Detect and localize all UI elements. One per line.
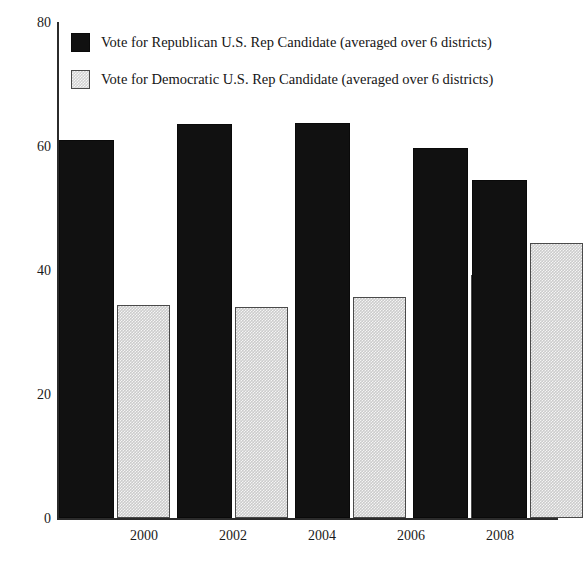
bar-republican-2000 <box>59 140 114 518</box>
y-tick-label-60: 60 <box>5 140 51 154</box>
x-tick-label-2000: 2000 <box>130 528 158 544</box>
bar-democratic-2002 <box>235 307 288 518</box>
bar-democratic-2006 <box>471 275 524 518</box>
bar-republican-2004 <box>295 123 350 518</box>
y-tick-label-0: 0 <box>5 512 51 526</box>
bar-republican-2002 <box>177 124 232 518</box>
plot-area <box>59 22 558 518</box>
x-tick-label-2006: 2006 <box>397 528 425 544</box>
legend-swatch-democratic-icon <box>71 70 90 89</box>
y-tick-label-40: 40 <box>5 264 51 278</box>
x-tick-label-2008: 2008 <box>486 528 514 544</box>
legend-item-democratic: Vote for Democratic U.S. Rep Candidate (… <box>71 69 493 89</box>
y-axis-tick-labels: 80 60 40 20 0 <box>0 0 51 564</box>
x-tick-label-2004: 2004 <box>308 528 336 544</box>
legend-item-republican: Vote for Republican U.S. Rep Candidate (… <box>71 32 492 52</box>
bar-democratic-2004 <box>353 297 406 518</box>
x-tick-label-2002: 2002 <box>219 528 247 544</box>
cropped-header-bleed <box>60 0 480 4</box>
bar-republican-2006 <box>413 148 468 518</box>
legend-swatch-republican-icon <box>71 33 90 52</box>
legend-label-democratic: Vote for Democratic U.S. Rep Candidate (… <box>101 71 493 87</box>
x-axis-line <box>57 518 558 520</box>
bar-democratic-2000 <box>117 305 170 518</box>
y-tick-label-20: 20 <box>5 388 51 402</box>
y-tick-label-80: 80 <box>5 16 51 30</box>
legend-label-republican: Vote for Republican U.S. Rep Candidate (… <box>101 34 492 50</box>
